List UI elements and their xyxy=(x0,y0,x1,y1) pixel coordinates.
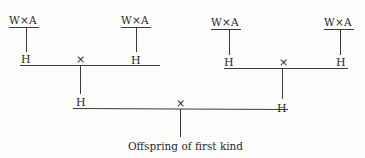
parent-cross-label: W×A xyxy=(121,15,149,26)
cross-symbol: × xyxy=(176,98,185,109)
offspring-caption: Offspring of first kind xyxy=(128,141,243,152)
parent-cross-label: W×A xyxy=(324,17,352,28)
cross-symbol: × xyxy=(279,57,288,68)
hybrid-label: H xyxy=(76,97,86,108)
hybrid-label: H xyxy=(277,103,287,114)
cross-symbol: × xyxy=(76,54,85,65)
connector-lines xyxy=(0,0,365,158)
hybrid-label: H xyxy=(21,54,31,65)
parent-cross-label: W×A xyxy=(211,17,239,28)
hybrid-label: H xyxy=(131,55,141,66)
parent-cross-label: W×A xyxy=(9,15,37,26)
hybrid-label: H xyxy=(336,57,346,68)
pedigree-diagram: W×A W×A W×A W×A H H H H × × H H × Offspr… xyxy=(0,0,365,158)
hybrid-label: H xyxy=(224,57,234,68)
